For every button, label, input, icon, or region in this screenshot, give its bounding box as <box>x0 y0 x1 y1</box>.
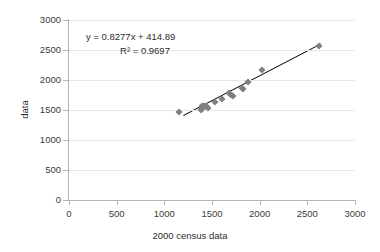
x-axis-tick <box>212 200 213 205</box>
y-axis-tick-label: 0 <box>21 195 61 205</box>
y-axis-tick <box>63 110 69 111</box>
y-axis-tick-label: 500 <box>21 165 61 175</box>
gridline <box>69 170 355 171</box>
x-axis-tick-label: 2500 <box>287 209 327 219</box>
y-axis-tick <box>63 80 69 81</box>
x-axis-tick-label: 1000 <box>144 209 184 219</box>
trendline-annotation: y = 0.8277x + 414.89 R² = 0.9697 <box>80 30 210 58</box>
r-squared-text: R² = 0.9697 <box>80 44 210 58</box>
regression-equation-text: y = 0.8277x + 414.89 <box>80 30 210 44</box>
y-axis-tick <box>63 20 69 21</box>
y-axis-tick <box>63 170 69 171</box>
x-axis-tick <box>164 200 165 205</box>
y-axis-title: data <box>19 80 30 140</box>
y-axis-tick <box>63 140 69 141</box>
x-axis-tick <box>260 200 261 205</box>
x-axis-tick-label: 3000 <box>335 209 375 219</box>
x-axis-tick <box>117 200 118 205</box>
x-axis-tick <box>307 200 308 205</box>
y-axis-tick <box>63 50 69 51</box>
x-axis-tick-label: 500 <box>97 209 137 219</box>
y-axis-tick-label: 2500 <box>21 45 61 55</box>
gridline <box>69 110 355 111</box>
gridline <box>69 80 355 81</box>
x-axis-tick-label: 0 <box>49 209 89 219</box>
x-axis-tick <box>69 200 70 205</box>
gridline <box>69 140 355 141</box>
x-axis-tick-label: 2000 <box>240 209 280 219</box>
x-axis-tick-label: 1500 <box>192 209 232 219</box>
y-axis-tick-label: 3000 <box>21 15 61 25</box>
gridline <box>69 20 355 21</box>
scatter-chart: 050010001500200025003000 050010001500200… <box>0 0 380 252</box>
x-axis-tick <box>355 200 356 205</box>
x-axis-title: 2000 census data <box>0 230 380 241</box>
